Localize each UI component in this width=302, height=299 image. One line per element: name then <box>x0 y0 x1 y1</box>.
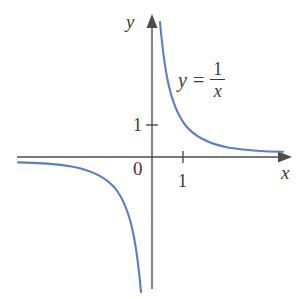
curve-branch-negative <box>18 162 141 292</box>
fraction-numerator: 1 <box>210 60 225 79</box>
origin-label: 0 <box>133 159 143 178</box>
x-axis-arrowhead <box>278 152 292 163</box>
y-axis-tick-label-1: 1 <box>133 116 142 134</box>
equation-equals-sign: = <box>193 69 204 92</box>
equation-annotation: y = 1 x <box>178 60 225 100</box>
x-axis-label: x <box>281 163 289 182</box>
plot-area <box>0 0 302 299</box>
equation-fraction: 1 x <box>210 60 225 100</box>
fraction-denominator: x <box>211 80 225 100</box>
function-graph-figure: y x 0 1 1 y = 1 x <box>0 0 302 299</box>
y-axis-arrowhead <box>147 14 158 28</box>
y-axis-label: y <box>126 12 134 31</box>
x-axis-tick-label-1: 1 <box>178 172 187 190</box>
equation-left-side: y <box>178 69 187 92</box>
